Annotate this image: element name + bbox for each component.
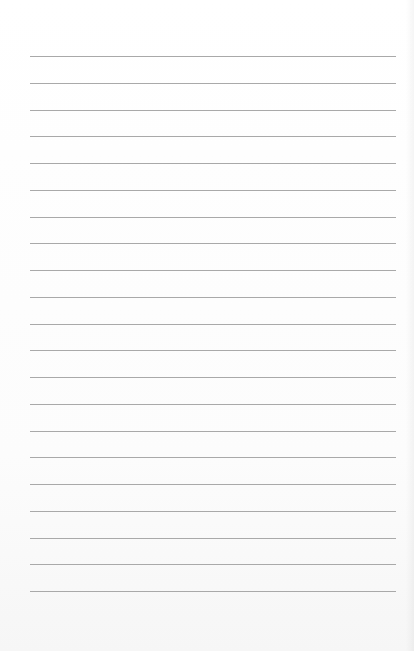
ruled-line xyxy=(30,136,396,137)
ruled-line xyxy=(30,243,396,244)
ruled-line xyxy=(30,431,396,432)
ruled-line xyxy=(30,297,396,298)
ruled-line xyxy=(30,404,396,405)
ruled-line xyxy=(30,350,396,351)
ruled-line xyxy=(30,564,396,565)
ruled-line xyxy=(30,163,396,164)
ruled-line xyxy=(30,270,396,271)
ruled-line xyxy=(30,56,396,57)
ruled-line xyxy=(30,110,396,111)
ruled-line xyxy=(30,484,396,485)
ruled-line xyxy=(30,591,396,592)
ruled-line xyxy=(30,457,396,458)
ruled-line xyxy=(30,377,396,378)
ruled-line xyxy=(30,83,396,84)
ruled-line xyxy=(30,190,396,191)
page-edge-shadow xyxy=(406,0,414,651)
ruled-line xyxy=(30,324,396,325)
ruled-line xyxy=(30,538,396,539)
lined-paper-page xyxy=(0,0,414,651)
ruled-line xyxy=(30,217,396,218)
ruled-line xyxy=(30,511,396,512)
